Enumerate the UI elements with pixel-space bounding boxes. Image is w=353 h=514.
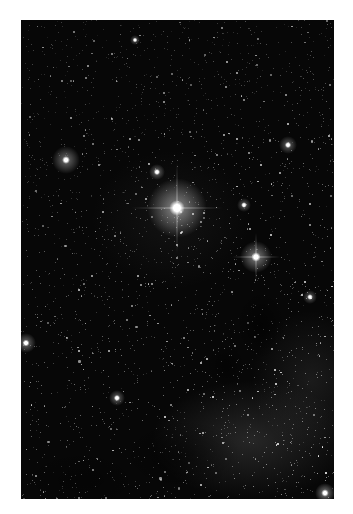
dark-dust-lane (121, 420, 241, 490)
diffraction-spike (177, 163, 178, 253)
diffraction-spike (132, 208, 222, 209)
nebula-glow (91, 150, 251, 290)
bright-star (109, 390, 125, 406)
bright-star (279, 136, 297, 154)
diffraction-spike (232, 257, 280, 258)
diffraction-spike (256, 233, 257, 281)
bright-star (52, 146, 80, 174)
bright-star (147, 178, 207, 238)
starfield-photo (21, 20, 334, 499)
